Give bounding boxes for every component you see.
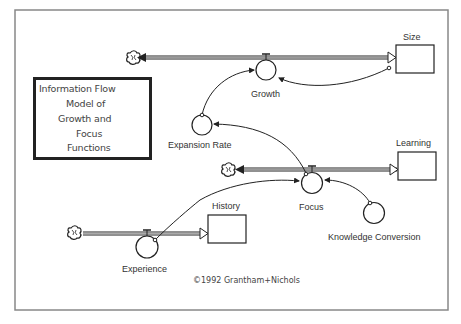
title-line-1: Information Flow [39, 83, 116, 94]
cloud-icon [68, 226, 81, 240]
copyright-text: ©1992 Grantham+Nichols [193, 276, 300, 285]
converter-expansion-rate-label: Expansion Rate [168, 141, 232, 150]
title-line-5: Functions [67, 142, 111, 153]
flow-experience-label: Experience [122, 265, 167, 274]
title-line-4: Focus [76, 128, 102, 139]
stock-history-label: History [212, 202, 240, 211]
converter-knowledge-conversion[interactable] [364, 203, 385, 224]
flow-growth-label: Growth [251, 90, 280, 99]
flow-growth-valve[interactable] [256, 60, 276, 80]
stock-learning[interactable] [398, 152, 436, 180]
flow-focus-label: Focus [299, 203, 324, 212]
converter-expansion-rate[interactable] [192, 115, 212, 135]
title-line-3: Growth and [58, 113, 111, 124]
stock-size[interactable] [396, 45, 434, 73]
converter-knowledge-conversion-label: Knowledge Conversion [328, 233, 421, 242]
stock-history[interactable] [208, 215, 246, 243]
title-line-2: Model of [66, 98, 105, 109]
title-box: Information Flow Model of Growth and Foc… [33, 77, 152, 160]
cloud-icon [222, 163, 235, 177]
stock-learning-label: Learning [396, 139, 431, 148]
stock-size-label: Size [403, 33, 421, 42]
outer-border [15, 10, 448, 310]
